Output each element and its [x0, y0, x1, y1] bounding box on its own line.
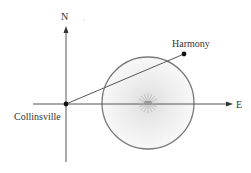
east-label: E	[236, 99, 242, 110]
collinsville-point	[64, 102, 69, 107]
center-marker	[144, 101, 152, 105]
harmony-label: Harmony	[172, 38, 210, 49]
speck	[83, 19, 84, 20]
harmony-point	[182, 52, 187, 57]
east-arrow-icon	[226, 102, 233, 107]
north-arrow-icon	[64, 26, 69, 33]
coordinate-diagram: N E Collinsville Harmony	[0, 0, 251, 173]
collinsville-label: Collinsville	[14, 111, 61, 122]
north-label: N	[61, 11, 68, 22]
